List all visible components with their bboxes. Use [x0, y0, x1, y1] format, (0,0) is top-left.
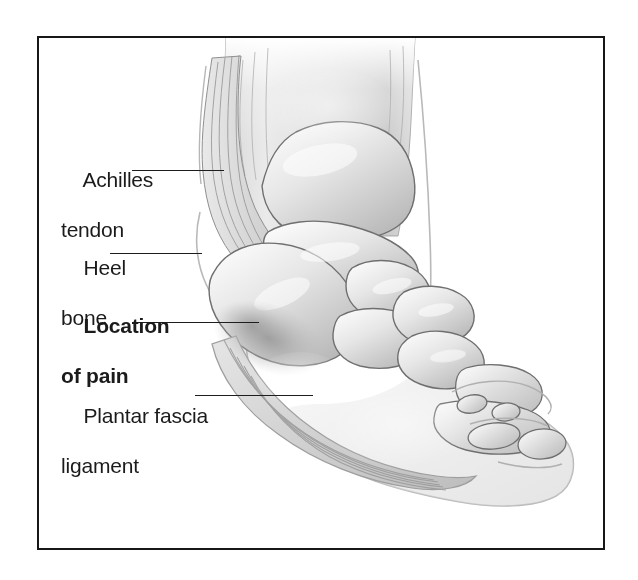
label-location-of-pain-line1: Location [84, 314, 170, 337]
label-plantar-fascia-line1: Plantar fascia [84, 404, 208, 427]
label-achilles-tendon-line1: Achilles [82, 168, 153, 191]
leader-line-plantar-fascia [195, 395, 313, 396]
label-plantar-fascia-ligament: Plantar fascia ligament [61, 378, 208, 528]
label-plantar-fascia-line2: ligament [61, 453, 208, 478]
label-heel-bone-line1: Heel [84, 256, 126, 279]
figure-root: Achilles tendon Heel bone Location of pa… [0, 0, 638, 580]
